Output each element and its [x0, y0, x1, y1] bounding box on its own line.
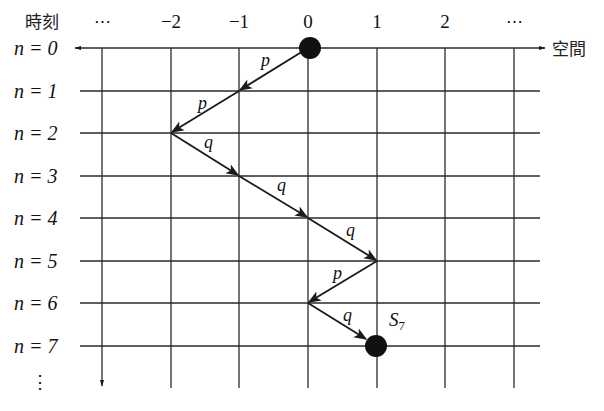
- row-label: n = 4: [14, 207, 58, 229]
- step-label: p: [196, 93, 207, 113]
- column-label: 2: [440, 11, 450, 32]
- column-label: 1: [372, 11, 382, 32]
- column-labels: ⋯ −2 −1 0 1 2 ⋯: [94, 11, 523, 32]
- step-label: q: [204, 132, 213, 152]
- row-label: n = 7: [14, 335, 58, 357]
- step-arrow: [308, 303, 366, 339]
- end-label-main: S: [389, 309, 399, 330]
- step-label: q: [343, 305, 352, 325]
- start-dot: [299, 37, 321, 59]
- random-walk-diagram: 時刻 ⋯ −2 −1 0 1 2 ⋯ n = 0 n = 1 n = 2 n =…: [0, 0, 604, 411]
- row-label: n = 6: [14, 292, 58, 314]
- step-arrow: [309, 261, 377, 302]
- column-label: ⋯: [506, 12, 523, 31]
- space-axis-label: 空間: [552, 39, 586, 59]
- column-label: −2: [161, 11, 181, 32]
- end-dot: [365, 335, 387, 357]
- row-label: n = 0: [14, 37, 58, 59]
- step-label: q: [346, 220, 355, 240]
- step-label: p: [259, 50, 270, 70]
- row-label: n = 2: [14, 122, 58, 144]
- step-arrow: [240, 48, 308, 90]
- column-label: 0: [303, 11, 313, 32]
- row-label: n = 3: [14, 165, 58, 187]
- step-arrow: [239, 176, 307, 217]
- step-label: p: [331, 263, 342, 283]
- row-label: n = 1: [14, 80, 58, 102]
- step-label: q: [277, 175, 286, 195]
- column-label: ⋯: [94, 12, 111, 31]
- row-labels: n = 0 n = 1 n = 2 n = 3 n = 4 n = 5 n = …: [14, 37, 58, 392]
- column-label: −1: [229, 11, 249, 32]
- end-label-subscript: 7: [399, 318, 406, 333]
- row-label: n = 5: [14, 250, 58, 272]
- end-position-label: S7: [389, 309, 406, 333]
- time-axis-label: 時刻: [25, 12, 59, 32]
- step-arrow: [308, 218, 376, 260]
- row-continuation: ⋮: [31, 372, 49, 392]
